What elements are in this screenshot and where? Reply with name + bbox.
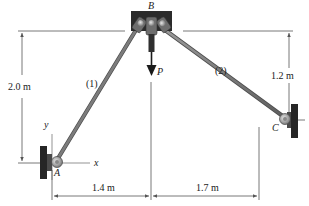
dimension-label-1-2m: 1.2 m [271, 70, 294, 81]
point-b-label: B [148, 0, 154, 11]
member-1: (1) [57, 30, 136, 160]
dimension-label-1-4m: 1.4 m [92, 182, 115, 193]
load-label: P [156, 66, 163, 77]
x-axis-label: x [93, 157, 99, 168]
dimension-height-cb: 1.2 m [271, 33, 294, 118]
support-b: B [131, 0, 172, 35]
load-p: P [147, 34, 164, 77]
member-2-label: (2) [215, 65, 227, 77]
y-axis-label: y [43, 119, 49, 130]
truss-figure: 2.0 m 1.2 m 1.4 m 1.7 m y x (1) [0, 0, 309, 206]
support-a: A [40, 146, 63, 179]
load-arrow-icon [147, 65, 157, 76]
member-2: (2) [165, 30, 284, 117]
point-a-label: A [53, 167, 61, 178]
reference-lines [18, 31, 305, 200]
dimension-label-1-7m: 1.7 m [196, 182, 219, 193]
dimension-label-2-0m: 2.0 m [8, 81, 31, 92]
dimension-height-ab: 2.0 m [8, 33, 31, 161]
dimension-horizontal: 1.4 m 1.7 m [54, 182, 257, 196]
truss-diagram: 2.0 m 1.2 m 1.4 m 1.7 m y x (1) [0, 0, 309, 206]
point-c-label: C [272, 122, 279, 133]
member-1-label: (1) [86, 78, 98, 90]
